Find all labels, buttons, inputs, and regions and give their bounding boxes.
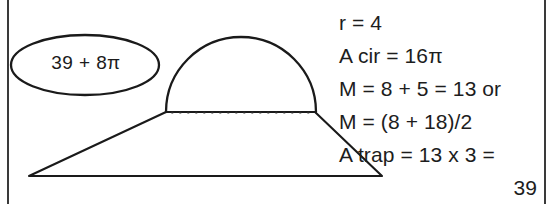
circled-answer-text: 39 + 8π — [38, 52, 134, 74]
work-line-radius: r = 4 — [339, 6, 551, 39]
work-line-trap-result: 39 — [339, 171, 551, 204]
work-line-circle-area: A cir = 16π — [339, 39, 551, 72]
work-line-midsegment-a: M = 8 + 5 = 13 or — [339, 72, 551, 105]
trapezoid-outline — [29, 112, 382, 176]
work-line-midsegment-b: M = (8 + 18)/2 — [339, 105, 551, 138]
worked-solution-block: r = 4 A cir = 16π M = 8 + 5 = 13 or M = … — [339, 6, 551, 204]
semicircle-arc — [166, 37, 316, 112]
work-line-trap-area: A trap = 13 x 3 = — [339, 138, 551, 171]
worksheet-page: 39 + 8π r = 4 A cir = 16π M = 8 + 5 = 13… — [0, 0, 557, 204]
